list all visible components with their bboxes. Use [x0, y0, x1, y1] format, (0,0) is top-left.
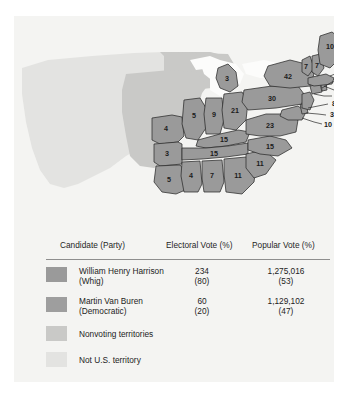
label-michigan: 3 — [225, 74, 229, 83]
harrison-party: (Whig) — [79, 276, 164, 286]
nonvoting-swatch — [46, 326, 67, 341]
figure-panel: 10 7 7 42 14 4 8 30 8 3 10 23 15 11 11 7 — [14, 16, 334, 382]
label-kentucky: 15 — [220, 135, 228, 144]
header-popular-vote: Popular Vote (%) — [252, 240, 315, 250]
results-table: Candidate (Party) Electoral Vote (%) Pop… — [14, 234, 334, 382]
label-arkansas: 3 — [165, 149, 169, 158]
label-ohio: 21 — [231, 106, 239, 115]
label-louisiana: 5 — [167, 175, 171, 184]
harrison-electoral-pct: (80) — [166, 276, 238, 286]
label-new-york: 42 — [284, 72, 292, 81]
label-missouri: 4 — [164, 124, 168, 133]
harrison-name: William Henry Harrison — [79, 266, 164, 276]
label-tennessee: 15 — [210, 149, 218, 158]
not-us-swatch — [46, 352, 67, 367]
label-vermont: 7 — [304, 62, 308, 71]
election-map: 10 7 7 42 14 4 8 30 8 3 10 23 15 11 11 7 — [14, 16, 334, 234]
vanburen-party: (Democratic) — [79, 306, 143, 316]
legend-row: Not U.S. territory — [14, 352, 334, 372]
table-header-row: Candidate (Party) Electoral Vote (%) Pop… — [14, 240, 334, 256]
table-row: William Henry Harrison (Whig) 234 (80) 1… — [14, 266, 334, 292]
legend-not-us-label: Not U.S. territory — [79, 355, 141, 365]
label-north-carolina: 15 — [266, 142, 274, 151]
figure-root: 10 7 7 42 14 4 8 30 8 3 10 23 15 11 11 7 — [0, 0, 350, 412]
vanburen-electoral-vote: 60 — [197, 296, 206, 306]
vanburen-electoral-pct: (20) — [166, 306, 238, 316]
table-row: Martin Van Buren (Democratic) 60 (20) 1,… — [14, 296, 334, 322]
harrison-popular-pct: (53) — [246, 276, 326, 286]
label-georgia: 11 — [234, 171, 242, 180]
label-new-jersey: 8 — [332, 99, 334, 108]
vanburen-popular-pct: (47) — [246, 306, 326, 316]
vanburen-popular-vote: 1,129,102 — [268, 296, 305, 306]
harrison-electoral-vote: 234 — [195, 266, 209, 276]
header-divider — [46, 259, 330, 260]
vanburen-name: Martin Van Buren — [79, 296, 143, 306]
legend-nonvoting-label: Nonvoting territories — [79, 329, 153, 339]
harrison-popular: 1,275,016 (53) — [246, 266, 326, 287]
label-pennsylvania: 30 — [268, 94, 276, 103]
header-electoral-vote: Electoral Vote (%) — [166, 240, 232, 250]
harrison-electoral: 234 (80) — [166, 266, 238, 287]
label-virginia: 23 — [266, 121, 274, 130]
legend-row: Nonvoting territories — [14, 326, 334, 346]
label-maine: 10 — [326, 42, 334, 51]
label-indiana: 9 — [212, 110, 216, 119]
state-missouri — [152, 115, 184, 144]
header-candidate: Candidate (Party) — [60, 240, 125, 250]
candidate-harrison: William Henry Harrison (Whig) — [79, 266, 164, 287]
harrison-swatch — [46, 267, 67, 282]
harrison-popular-vote: 1,275,016 — [268, 266, 305, 276]
label-delaware: 3 — [330, 110, 334, 119]
label-south-carolina: 11 — [256, 159, 264, 168]
vanburen-popular: 1,129,102 (47) — [246, 296, 326, 317]
vanburen-swatch — [46, 297, 67, 312]
label-alabama: 7 — [210, 171, 214, 180]
label-maryland: 10 — [324, 120, 332, 129]
label-mississippi: 4 — [189, 171, 193, 180]
vanburen-electoral: 60 (20) — [166, 296, 238, 317]
label-new-hampshire: 7 — [315, 61, 319, 70]
label-illinois: 5 — [192, 111, 196, 120]
candidate-van-buren: Martin Van Buren (Democratic) — [79, 296, 143, 317]
